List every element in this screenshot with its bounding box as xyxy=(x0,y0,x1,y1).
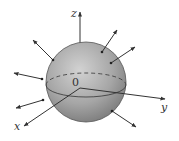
normal-vector xyxy=(14,73,42,79)
origin-label: 0 xyxy=(72,76,79,89)
normal-base-point xyxy=(52,59,55,62)
sphere-normals-diagram: z y x 0 xyxy=(0,0,179,141)
normal-base-point xyxy=(110,62,113,65)
normal-vector xyxy=(102,30,117,52)
normal-base-point xyxy=(42,99,45,102)
y-axis-label: y xyxy=(160,101,168,114)
normal-vector xyxy=(112,111,136,127)
normal-base-point xyxy=(111,110,114,113)
normal-vector xyxy=(16,100,43,108)
sphere xyxy=(46,42,126,122)
x-axis-label: x xyxy=(14,120,21,133)
z-axis-label: z xyxy=(70,7,77,20)
normal-base-point xyxy=(41,78,44,81)
normal-base-point xyxy=(101,51,104,54)
normal-vector xyxy=(33,40,53,60)
